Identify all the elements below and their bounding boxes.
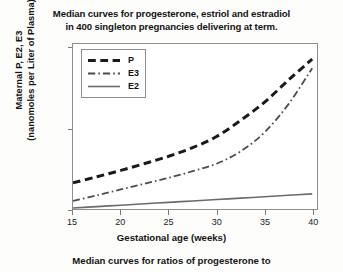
chart-title: Median curves for progesterone, estriol …: [0, 8, 343, 33]
legend-item-e2[interactable]: E2: [87, 80, 139, 93]
legend-swatch-e3-icon: [87, 68, 121, 79]
legend-item-p[interactable]: P: [87, 54, 139, 67]
legend-label: P: [128, 55, 134, 66]
x-tick-mark: [313, 210, 314, 215]
x-tick-label: 15: [59, 217, 85, 227]
y-axis-title-line-2: (nanomoles per Liter of Plasma): [25, 0, 37, 158]
x-tick-label: 25: [155, 217, 181, 227]
x-tick-label: 35: [252, 217, 278, 227]
y-axis-title: Maternal P, E2, E3 (nanomoles per Liter …: [13, 0, 37, 158]
y-axis-title-line-1: Maternal P, E2, E3: [13, 0, 25, 158]
x-axis-title: Gestational age (weeks): [0, 232, 343, 243]
figure-caption: Median curves for ratios of progesterone…: [0, 255, 343, 266]
x-tick-mark: [217, 210, 218, 215]
chart-figure: Median curves for progesterone, estriol …: [0, 0, 343, 272]
chart-title-line-1: Median curves for progesterone, estriol …: [0, 8, 343, 21]
x-tick-mark: [72, 210, 73, 215]
x-tick-label: 20: [107, 217, 133, 227]
legend-item-e3[interactable]: E3: [87, 67, 139, 80]
legend-label: E3: [128, 68, 139, 79]
x-tick-mark: [120, 210, 121, 215]
legend: PE3E2: [81, 49, 146, 98]
legend-swatch-p-icon: [87, 55, 121, 66]
x-tick-mark: [265, 210, 266, 215]
chart-title-line-2: in 400 singleton pregnancies delivering …: [0, 21, 343, 34]
x-tick-mark: [168, 210, 169, 215]
legend-swatch-e2-icon: [87, 81, 121, 92]
series-line-e2: [73, 194, 312, 208]
x-tick-label: 40: [300, 217, 326, 227]
legend-label: E2: [128, 81, 139, 92]
x-tick-label: 30: [204, 217, 230, 227]
